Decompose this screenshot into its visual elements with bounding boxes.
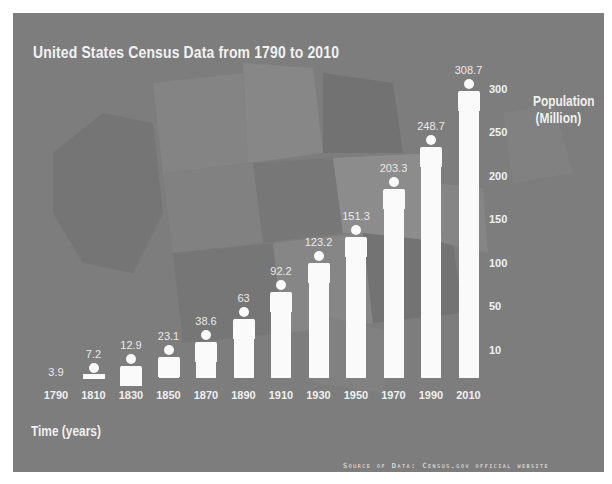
value-label: 38.6 [181,315,231,327]
value-label: 3.9 [31,366,81,378]
value-label: 308.7 [444,64,494,76]
person-head-icon [239,307,249,317]
person-body [83,374,105,379]
x-tick-1890: 1890 [224,389,264,401]
y-tick-10: 10 [489,344,501,356]
x-tick-1930: 1930 [299,389,339,401]
value-label: 123.2 [294,236,344,248]
y-axis-label-line2: (Million) [533,110,594,127]
x-tick-1950: 1950 [336,389,376,401]
x-tick-1990: 1990 [411,389,451,401]
person-body [196,342,216,378]
chart-panel: United States Census Data from 1790 to 2… [13,13,604,472]
y-tick-250: 250 [489,126,507,138]
y-tick-50: 50 [489,300,501,312]
person-head-icon [464,79,474,89]
value-label: 92.2 [256,265,306,277]
person-head-icon [426,135,436,145]
person-head-icon [389,177,399,187]
person-body [234,319,254,378]
person-body [384,189,404,378]
y-axis-label-line1: Population [533,93,594,110]
x-tick-1810: 1810 [74,389,114,401]
x-tick-2010: 2010 [449,389,489,401]
source-note: Source of Data: Census.gov official webs… [343,462,549,470]
chart-title: United States Census Data from 1790 to 2… [33,43,339,63]
person-body [421,147,441,378]
value-label: 63 [219,292,269,304]
person-body [346,237,366,378]
x-tick-1830: 1830 [111,389,151,401]
y-tick-200: 200 [489,170,507,182]
x-tick-1870: 1870 [186,389,226,401]
person-body [271,292,291,378]
x-tick-1970: 1970 [374,389,414,401]
value-label: 151.3 [331,210,381,222]
y-tick-100: 100 [489,257,507,269]
person-head-icon [89,363,99,373]
person-body [459,91,479,378]
y-tick-150: 150 [489,213,507,225]
person-body [309,263,329,378]
person-body [121,366,141,378]
person-head-icon [164,345,174,355]
value-label: 248.7 [406,120,456,132]
x-tick-1910: 1910 [261,389,301,401]
x-tick-1790: 1790 [36,389,76,401]
x-tick-1850: 1850 [149,389,189,401]
x-axis-label: Time (years) [31,423,101,439]
value-label: 203.3 [369,162,419,174]
person-body [159,357,179,378]
value-label: 23.1 [144,330,194,342]
person-head-icon [314,251,324,261]
person-head-icon [126,354,136,364]
y-axis-label: Population (Million) [533,93,594,127]
y-tick-300: 300 [489,83,507,95]
